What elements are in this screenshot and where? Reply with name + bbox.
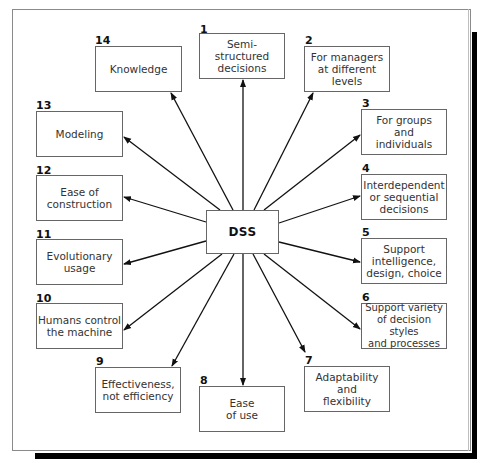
node-humans-control: Humans control the machine bbox=[36, 303, 123, 349]
node-adaptability: Adaptability and flexibility bbox=[304, 366, 390, 412]
node-number: 2 bbox=[305, 35, 313, 46]
node-knowledge: Knowledge bbox=[95, 46, 182, 92]
node-semi-structured-decisions: Semi- structured decisions bbox=[199, 33, 285, 79]
node-number: 13 bbox=[36, 100, 51, 111]
node-number: 9 bbox=[96, 356, 104, 367]
node-number: 4 bbox=[362, 163, 370, 174]
arrow-to-9 bbox=[172, 254, 234, 366]
arrow-to-10 bbox=[124, 254, 222, 330]
node-for-managers: For managers at different levels bbox=[304, 46, 390, 92]
node-ease-of-construction: Ease of construction bbox=[36, 175, 123, 221]
arrow-to-12 bbox=[124, 197, 206, 222]
arrow-to-4 bbox=[279, 196, 360, 223]
node-number: 5 bbox=[362, 227, 370, 238]
arrow-to-14 bbox=[171, 93, 233, 210]
arrow-to-13 bbox=[124, 137, 220, 210]
arrow-to-2 bbox=[254, 93, 313, 210]
node-interdependent-decisions: Interdependent or sequential decisions bbox=[361, 174, 447, 220]
arrow-to-5 bbox=[279, 242, 360, 262]
dss-center-node: DSS bbox=[206, 210, 279, 254]
arrow-to-11 bbox=[124, 241, 206, 264]
arrow-to-6 bbox=[264, 254, 360, 329]
arrow-to-3 bbox=[264, 135, 360, 210]
node-effectiveness: Effectiveness, not efficiency bbox=[95, 367, 181, 413]
node-ease-of-use: Ease of use bbox=[199, 386, 285, 432]
node-evolutionary-usage: Evolutionary usage bbox=[36, 239, 123, 285]
node-number: 3 bbox=[362, 98, 370, 109]
node-number: 14 bbox=[95, 35, 110, 46]
node-modeling: Modeling bbox=[36, 111, 123, 157]
arrow-to-7 bbox=[253, 254, 305, 352]
node-number: 7 bbox=[305, 355, 313, 366]
node-groups-individuals: For groups and individuals bbox=[361, 109, 447, 155]
node-support-variety: Support variety of decision styles and p… bbox=[361, 303, 447, 349]
node-number: 8 bbox=[200, 375, 208, 386]
node-support-intelligence: Support intelligence, design, choice bbox=[361, 238, 447, 284]
